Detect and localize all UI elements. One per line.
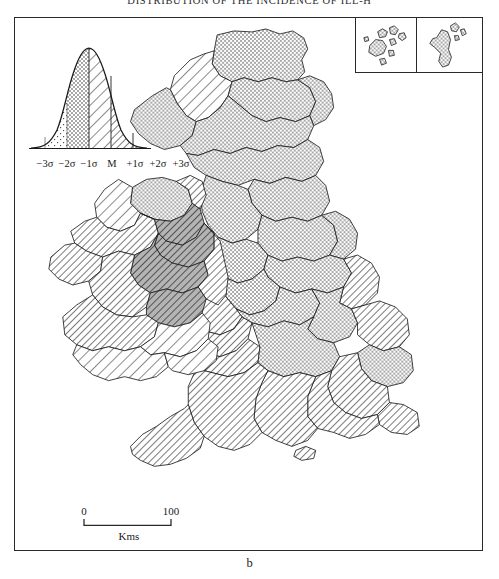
legend-tick-plus2sigma: +2σ <box>150 158 167 169</box>
figure-caption-text: b <box>246 556 252 570</box>
region-isle-of-wight <box>294 446 316 460</box>
inset-orkney-islands <box>355 18 416 73</box>
legend-axis-labels: −3σ −2σ −1σ M +1σ +2σ +3σ <box>23 158 189 178</box>
running-head: DISTRIBUTION OF THE INCIDENCE OF ILL-H <box>0 0 499 12</box>
legend-tick-minus3sigma: −3σ <box>37 158 54 169</box>
scale-bar-start-label: 0 <box>81 505 87 517</box>
legend-tick-plus1sigma: +1σ <box>127 158 144 169</box>
scale-bar-unit-label: Kms <box>119 530 140 542</box>
legend-tick-mean: M <box>107 158 116 169</box>
region-england-yorkshire-north <box>258 215 338 261</box>
region-england-norfolk <box>352 301 410 351</box>
figure-caption: b <box>0 556 499 571</box>
map-frame: −3σ −2σ −1σ M +1σ +2σ +3σ 0 100 Kms <box>14 17 483 551</box>
legend-tick-minus2sigma: −2σ <box>59 158 76 169</box>
region-england-wessex <box>254 371 318 447</box>
scale-bar: 0 100 Kms <box>73 505 185 547</box>
scale-bar-rule <box>73 517 185 529</box>
legend-tick-minus1sigma: −1σ <box>81 158 98 169</box>
region-scotland-north <box>212 29 308 82</box>
shetland-islands-shape <box>417 18 482 72</box>
legend-tick-plus3sigma: +3σ <box>173 158 190 169</box>
distribution-legend: −3σ −2σ −1σ M +1σ +2σ +3σ <box>23 36 189 191</box>
inset-shetland-islands <box>416 18 482 73</box>
running-head-text: DISTRIBUTION OF THE INCIDENCE OF ILL-H <box>0 0 499 6</box>
scale-bar-end-label: 100 <box>163 505 180 517</box>
orkney-islands-shape <box>356 18 416 72</box>
normal-curve-legend <box>23 36 189 158</box>
